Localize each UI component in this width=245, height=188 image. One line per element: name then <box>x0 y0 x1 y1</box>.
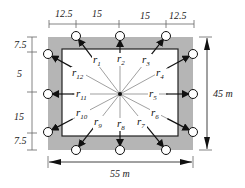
left-dim-label-4: 7.5 <box>14 135 27 146</box>
endpoint-circle-r4 <box>189 50 198 59</box>
top-dim-label-1: 12.5 <box>55 8 73 19</box>
endpoint-circle-r12 <box>44 50 53 59</box>
endpoint-circle-r2 <box>116 32 125 41</box>
endpoint-circle-r6 <box>189 128 198 137</box>
width-label: 55 m <box>110 168 130 179</box>
left-dim-label-3: 15 <box>14 111 24 122</box>
height-label: 45 m <box>213 88 233 99</box>
left-dimension-line <box>27 37 37 150</box>
left-dim-label-2: 5 <box>17 68 22 79</box>
top-dimension-line <box>49 20 194 28</box>
endpoint-circle-r7 <box>162 146 171 155</box>
endpoint-circle-r9 <box>72 146 81 155</box>
left-dim-label-1: 7.5 <box>14 39 27 50</box>
position-vector-diagram: r1r2r3r4r5r6r7r8r9r10r11r12 12.5 15 15 1… <box>0 0 245 188</box>
endpoint-circle-r3 <box>162 32 171 41</box>
endpoint-circle-r5 <box>189 90 198 99</box>
top-dim-label-4: 12.5 <box>169 10 187 21</box>
endpoint-circle-r11 <box>44 90 53 99</box>
top-dim-label-2: 15 <box>92 8 102 19</box>
center-point <box>118 92 122 96</box>
top-dim-label-3: 15 <box>140 10 150 21</box>
width-dimension <box>48 156 193 168</box>
endpoint-circle-r1 <box>72 32 81 41</box>
endpoint-circle-r8 <box>116 146 125 155</box>
endpoint-circle-r10 <box>44 128 53 137</box>
height-dimension <box>199 37 212 150</box>
